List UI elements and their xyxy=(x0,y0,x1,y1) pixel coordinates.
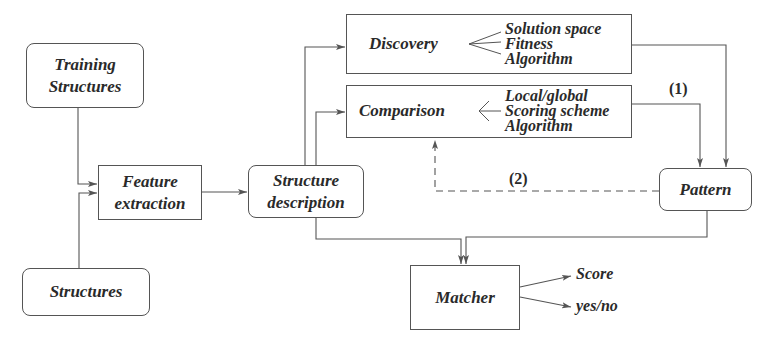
edge-pattern-to-comparison-dashed xyxy=(435,140,659,191)
comparison-node: Comparison Local/global Scoring scheme A… xyxy=(346,85,632,138)
edge-description-to-matcher xyxy=(316,218,461,264)
comparison-sub-local-global: Local/global xyxy=(505,88,609,103)
discovery-sub-fitness: Fitness xyxy=(505,36,601,51)
discovery-node: Discovery Solution space Fitness Algorit… xyxy=(346,14,632,74)
discovery-sub-solution-space: Solution space xyxy=(505,21,601,36)
discovery-fan-icon xyxy=(467,29,503,59)
training-structures-line-2: Structures xyxy=(49,76,122,98)
pattern-node: Pattern xyxy=(659,168,752,211)
comparison-label: Comparison xyxy=(359,100,445,122)
edge-discovery-to-pattern xyxy=(632,45,726,167)
comparison-sub-scoring-scheme: Scoring scheme xyxy=(505,103,609,118)
discovery-label: Discovery xyxy=(369,33,438,55)
structures-node: Structures xyxy=(22,268,150,316)
discovery-sub-items: Solution space Fitness Algorithm xyxy=(505,21,601,66)
yes-no-output-label: yes/no xyxy=(576,297,618,315)
training-structures-line-1: Training xyxy=(54,54,116,76)
structure-description-line-1: Structure xyxy=(273,170,339,192)
score-output-label: Score xyxy=(576,265,613,283)
matcher-label: Matcher xyxy=(435,287,495,309)
edge-comparison-to-pattern xyxy=(632,104,700,167)
edge-description-to-comparison xyxy=(316,112,345,165)
comparison-fan-icon xyxy=(477,98,503,124)
edge-description-to-discovery xyxy=(305,47,345,165)
edge-matcher-to-score xyxy=(520,276,571,287)
pattern-label: Pattern xyxy=(680,179,732,201)
edge-training-to-feature xyxy=(78,108,97,184)
structure-description-line-2: description xyxy=(267,192,344,214)
discovery-sub-algorithm: Algorithm xyxy=(505,51,601,66)
edge-structures-to-feature xyxy=(79,193,97,268)
structures-label: Structures xyxy=(50,281,123,303)
edge-pattern-to-matcher xyxy=(466,211,707,264)
feature-extraction-line-1: Feature xyxy=(122,171,178,193)
comparison-sub-items: Local/global Scoring scheme Algorithm xyxy=(505,88,609,133)
feature-extraction-line-2: extraction xyxy=(115,193,186,215)
comparison-sub-algorithm: Algorithm xyxy=(505,118,609,133)
structure-description-node: Structure description xyxy=(248,165,364,218)
edge-matcher-to-yesno xyxy=(520,297,571,307)
feature-extraction-node: Feature extraction xyxy=(98,165,202,220)
training-structures-node: Training Structures xyxy=(26,43,144,108)
path-2-label: (2) xyxy=(509,170,528,188)
matcher-node: Matcher xyxy=(410,265,520,330)
path-1-label: (1) xyxy=(669,80,688,98)
